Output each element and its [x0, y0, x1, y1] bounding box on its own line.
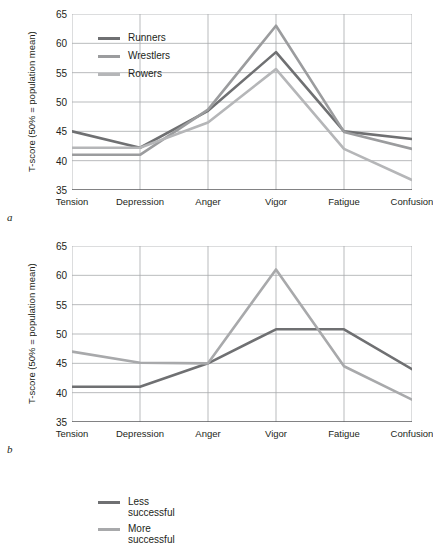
legend-item: More successful [98, 523, 175, 545]
y-axis-tick-label: 45 [56, 358, 67, 369]
panel-letter-a: a [7, 211, 13, 223]
x-axis-tick-label-vigor: Vigor [265, 428, 287, 439]
data-line-rowers [72, 69, 412, 180]
legend-b: Less successfulMore successful [98, 496, 175, 545]
legend-label: Runners [128, 32, 166, 43]
legend-label: Less successful [128, 496, 175, 518]
y-axis-tick-label: 60 [56, 38, 67, 49]
legend-label: Rowers [128, 68, 162, 79]
x-axis-tick-label-confusion: Confusion [391, 428, 433, 439]
y-axis-tick-label: 65 [56, 241, 67, 252]
y-axis-tick-label: 40 [56, 155, 67, 166]
legend-label: Wrestlers [128, 50, 170, 61]
y-axis-tick-label: 45 [56, 126, 67, 137]
x-axis-tick-label-fatigue: Fatigue [328, 428, 360, 439]
data-line-less-successful [72, 329, 412, 386]
y-axis-tick-label: 50 [56, 97, 67, 108]
legend-a: RunnersWrestlersRowers [98, 32, 170, 79]
legend-swatch-icon [98, 501, 120, 504]
y-axis-tick-label: 55 [56, 67, 67, 78]
chart-svg [72, 246, 412, 422]
x-axis-tick-label-fatigue: Fatigue [328, 196, 360, 207]
x-axis-tick-label-anger: Anger [195, 196, 220, 207]
x-axis-tick-label-depression: Depression [116, 428, 164, 439]
x-axis-tick-label-vigor: Vigor [265, 196, 287, 207]
legend-item: Runners [98, 32, 170, 43]
plot-area-b: 35404550556065TensionDepressionAngerVigo… [72, 246, 412, 422]
chart-panel-a: a T-score (50% = population mean) 354045… [0, 0, 427, 231]
y-axis-tick-label: 40 [56, 387, 67, 398]
y-axis-tick-label: 60 [56, 270, 67, 281]
x-axis-tick-label-depression: Depression [116, 196, 164, 207]
legend-swatch-icon [98, 528, 120, 531]
y-axis-tick-label: 55 [56, 299, 67, 310]
legend-label: More successful [128, 523, 175, 545]
x-axis-tick-label-anger: Anger [195, 428, 220, 439]
data-line-more-successful [72, 269, 412, 399]
panel-letter-b: b [7, 443, 13, 455]
legend-swatch-icon [98, 55, 120, 58]
y-axis-label-b: T-score (50% = population mean) [24, 246, 38, 422]
y-axis-tick-label: 65 [56, 9, 67, 20]
legend-item: Rowers [98, 68, 170, 79]
y-axis-tick-label: 35 [56, 417, 67, 428]
y-axis-label-a: T-score (50% = population mean) [24, 14, 38, 190]
y-axis-tick-label: 50 [56, 329, 67, 340]
legend-item: Less successful [98, 496, 175, 518]
legend-swatch-icon [98, 73, 120, 76]
legend-item: Wrestlers [98, 50, 170, 61]
y-axis-tick-label: 35 [56, 185, 67, 196]
x-axis-tick-label-confusion: Confusion [391, 196, 433, 207]
chart-panel-b: b T-score (50% = population mean) 354045… [0, 232, 427, 463]
legend-swatch-icon [98, 37, 120, 40]
x-axis-tick-label-tension: Tension [56, 428, 89, 439]
x-axis-tick-label-tension: Tension [56, 196, 89, 207]
